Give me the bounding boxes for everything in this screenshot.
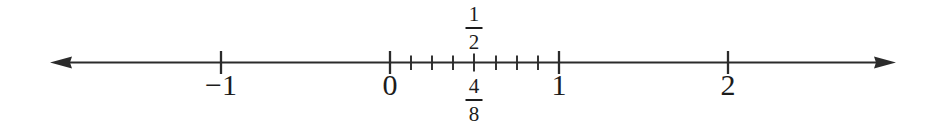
annotation-four-eighths-below: 4 8 <box>466 76 483 121</box>
number-line-figure: −1 0 1 2 1 2 4 8 <box>0 0 939 121</box>
fraction-numerator: 1 <box>467 4 482 26</box>
fraction-denominator: 2 <box>467 31 482 53</box>
fraction-denominator: 8 <box>467 103 482 121</box>
fraction-numerator: 4 <box>467 76 482 98</box>
tick-label-1: 1 <box>552 70 567 100</box>
left-arrowhead <box>50 57 72 69</box>
annotation-one-half-above: 1 2 <box>466 4 483 53</box>
tick-label-0: 0 <box>383 70 398 100</box>
fraction-bar <box>466 99 483 101</box>
right-arrowhead <box>874 57 896 69</box>
fraction-bar <box>466 27 483 29</box>
tick-label-2: 2 <box>721 70 736 100</box>
tick-label-minus-1: −1 <box>205 70 237 100</box>
